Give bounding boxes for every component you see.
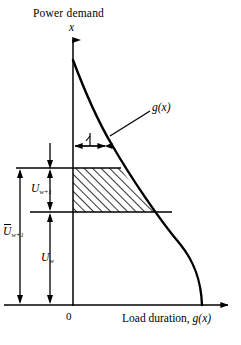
band-lower-dimension-label: Uw xyxy=(41,252,54,264)
load-duration-curve-figure: Power demand x g(x) Uw+1 Uw Uw+1 0 Load … xyxy=(0,0,241,345)
origin-label: 0 xyxy=(66,311,72,322)
y-axis-title: Power demand xyxy=(33,8,104,20)
band-lower-subscript: w xyxy=(50,257,54,264)
band-total-subscript: w+1 xyxy=(12,231,24,238)
band-total-dimension-label: Uw+1 xyxy=(3,226,23,238)
curve-callout-leader xyxy=(110,111,150,136)
band-upper-dimension-label: Uw+1 xyxy=(31,183,51,195)
x-axis-title-text: Load duration, xyxy=(122,312,190,324)
band-upper-base: U xyxy=(31,182,39,194)
band-total-base-wrap: U xyxy=(3,226,11,238)
band-total-base: U xyxy=(3,225,11,237)
y-axis-symbol: x xyxy=(69,22,74,34)
band-upper-subscript: w+1 xyxy=(40,188,52,195)
x-axis-title: Load duration, g(x) xyxy=(122,313,211,325)
hatched-region xyxy=(73,168,166,222)
band-top-pointer-arrow xyxy=(47,143,53,169)
x-axis-symbol: g(x) xyxy=(193,312,212,324)
horizontal-measure-annotation xyxy=(75,133,105,146)
curve-callout-label: g(x) xyxy=(152,102,171,114)
overbar xyxy=(4,224,12,225)
diagram-canvas xyxy=(0,0,241,345)
band-lower-base: U xyxy=(41,251,49,263)
